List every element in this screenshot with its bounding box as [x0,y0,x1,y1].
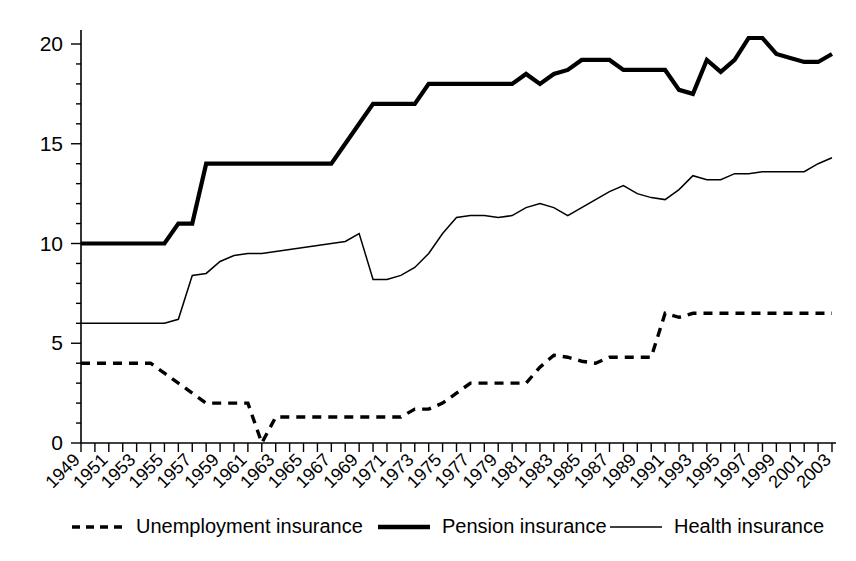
legend-label: Unemployment insurance [136,515,363,537]
y-axis-tick-label: 10 [40,232,63,255]
x-axis: 1949195119531955195719591961196319651967… [41,443,836,492]
series-line-pension [81,38,832,243]
y-axis-tick-label: 15 [40,132,63,155]
y-axis-tick-label: 20 [40,32,63,55]
y-axis: 05101520 [40,30,81,454]
chart-legend: Unemployment insurancePension insuranceH… [72,515,824,537]
y-axis-tick-label: 5 [51,331,63,354]
chart-container: 05101520 1949195119531955195719591961196… [0,0,856,561]
series-line-health [81,158,832,324]
legend-label: Health insurance [674,515,824,537]
series-line-unemployment [81,313,832,443]
series-layer [81,38,832,443]
y-axis-tick-label: 0 [51,431,63,454]
line-chart: 05101520 1949195119531955195719591961196… [0,0,856,561]
legend-label: Pension insurance [442,515,607,537]
